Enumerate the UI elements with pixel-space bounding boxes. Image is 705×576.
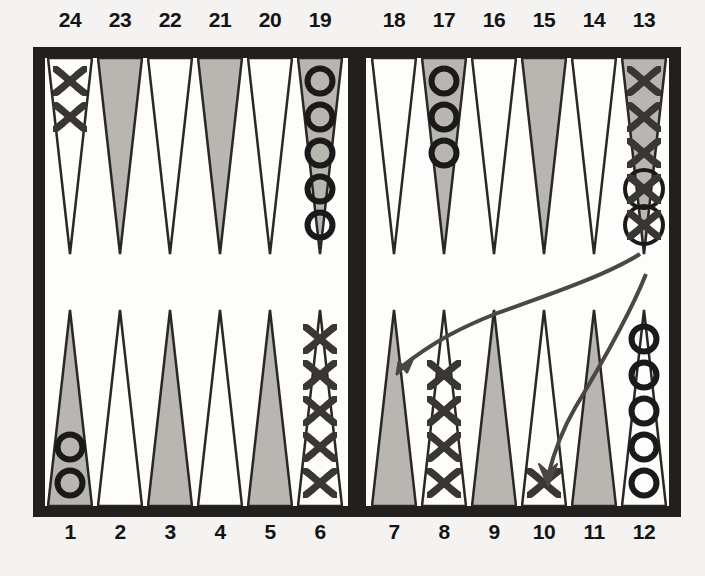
point-2[interactable] (97, 307, 143, 506)
board-frame (33, 47, 681, 517)
point-triangle-3 (147, 307, 193, 506)
checker-x-on-point-6[interactable] (303, 394, 337, 428)
point-24[interactable] (47, 58, 93, 257)
checker-x-on-point-8[interactable] (427, 466, 461, 500)
checker-o-on-point-12[interactable] (627, 394, 661, 428)
checker-o-on-point-19[interactable] (303, 172, 337, 206)
point-number-7: 7 (371, 520, 417, 544)
checker-o-on-point-12[interactable] (627, 430, 661, 464)
point-triangle-7 (371, 307, 417, 506)
checker-o-on-point-12[interactable] (627, 322, 661, 356)
checker-o-on-point-19[interactable] (303, 136, 337, 170)
checker-x-on-point-8[interactable] (427, 430, 461, 464)
checker-x-on-point-13[interactable] (627, 208, 661, 242)
point-triangle-5 (247, 307, 293, 506)
point-4[interactable] (197, 307, 243, 506)
point-16[interactable] (471, 58, 517, 257)
bottom-point-numbers: 123456789101112 (0, 520, 705, 550)
point-triangle-22 (147, 58, 193, 257)
point-number-8: 8 (421, 520, 467, 544)
point-triangle-23 (97, 58, 143, 257)
point-number-20: 20 (247, 8, 293, 32)
checker-x-on-point-13[interactable] (627, 172, 661, 206)
checker-o-on-point-1[interactable] (53, 466, 87, 500)
checker-o-on-point-17[interactable] (427, 136, 461, 170)
point-number-10: 10 (521, 520, 567, 544)
point-triangle-18 (371, 58, 417, 257)
checker-x-on-point-6[interactable] (303, 466, 337, 500)
checker-o-on-point-19[interactable] (303, 64, 337, 98)
point-number-4: 4 (197, 520, 243, 544)
point-20[interactable] (247, 58, 293, 257)
point-12[interactable] (621, 307, 667, 506)
point-3[interactable] (147, 307, 193, 506)
point-number-17: 17 (421, 8, 467, 32)
point-number-6: 6 (297, 520, 343, 544)
checker-o-on-point-19[interactable] (303, 208, 337, 242)
checker-x-on-point-13[interactable] (627, 64, 661, 98)
checker-x-on-point-6[interactable] (303, 358, 337, 392)
checker-x-on-point-6[interactable] (303, 430, 337, 464)
point-number-14: 14 (571, 8, 617, 32)
point-number-15: 15 (521, 8, 567, 32)
checker-x-on-point-24[interactable] (53, 100, 87, 134)
point-triangle-21 (197, 58, 243, 257)
point-number-3: 3 (147, 520, 193, 544)
checker-o-on-point-12[interactable] (627, 466, 661, 500)
checker-o-on-point-17[interactable] (427, 100, 461, 134)
point-triangle-2 (97, 307, 143, 506)
point-10[interactable] (521, 307, 567, 506)
point-17[interactable] (421, 58, 467, 257)
point-number-5: 5 (247, 520, 293, 544)
point-number-23: 23 (97, 8, 143, 32)
point-number-16: 16 (471, 8, 517, 32)
point-5[interactable] (247, 307, 293, 506)
point-7[interactable] (371, 307, 417, 506)
point-21[interactable] (197, 58, 243, 257)
point-8[interactable] (421, 307, 467, 506)
point-number-9: 9 (471, 520, 517, 544)
center-bar (348, 58, 366, 506)
checker-x-on-point-24[interactable] (53, 64, 87, 98)
point-number-21: 21 (197, 8, 243, 32)
point-number-22: 22 (147, 8, 193, 32)
playfield (45, 58, 669, 506)
checker-x-on-point-13[interactable] (627, 136, 661, 170)
point-11[interactable] (571, 307, 617, 506)
point-number-24: 24 (47, 8, 93, 32)
checker-x-on-point-10[interactable] (527, 466, 561, 500)
point-23[interactable] (97, 58, 143, 257)
backgammon-diagram: 242322212019181716151413 123456789101112 (0, 0, 705, 576)
point-22[interactable] (147, 58, 193, 257)
point-number-2: 2 (97, 520, 143, 544)
point-number-12: 12 (621, 520, 667, 544)
point-number-13: 13 (621, 8, 667, 32)
point-14[interactable] (571, 58, 617, 257)
point-triangle-16 (471, 58, 517, 257)
point-triangle-9 (471, 307, 517, 506)
point-number-11: 11 (571, 520, 617, 544)
point-number-1: 1 (47, 520, 93, 544)
point-1[interactable] (47, 307, 93, 506)
checker-x-on-point-13[interactable] (627, 100, 661, 134)
checker-o-on-point-1[interactable] (53, 430, 87, 464)
checker-x-on-point-8[interactable] (427, 358, 461, 392)
point-triangle-4 (197, 307, 243, 506)
checker-o-on-point-17[interactable] (427, 64, 461, 98)
checker-o-on-point-19[interactable] (303, 100, 337, 134)
point-9[interactable] (471, 307, 517, 506)
point-triangle-11 (571, 307, 617, 506)
point-number-18: 18 (371, 8, 417, 32)
checker-x-on-point-8[interactable] (427, 394, 461, 428)
point-triangle-20 (247, 58, 293, 257)
point-triangle-15 (521, 58, 567, 257)
point-19[interactable] (297, 58, 343, 257)
checker-x-on-point-6[interactable] (303, 322, 337, 356)
point-18[interactable] (371, 58, 417, 257)
point-triangle-14 (571, 58, 617, 257)
point-6[interactable] (297, 307, 343, 506)
point-13[interactable] (621, 58, 667, 257)
checker-o-on-point-12[interactable] (627, 358, 661, 392)
point-number-19: 19 (297, 8, 343, 32)
point-15[interactable] (521, 58, 567, 257)
